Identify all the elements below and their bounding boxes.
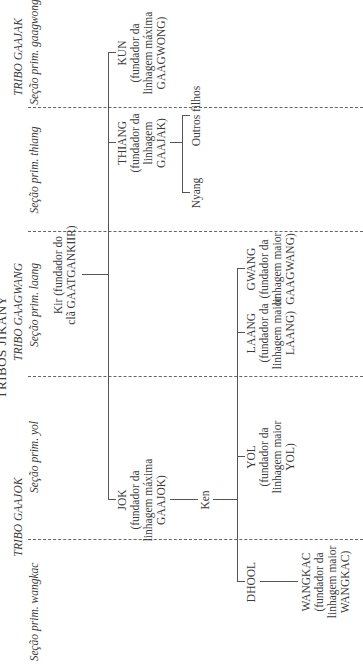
node-thiang: THIANG (fundador da linhagem GAAJAK) [116,113,168,172]
lineage-diagram: TRIBOS JIKÁNY TRIBO GAAJOK TRIBO GAAGWAN… [0,0,363,667]
separator-2 [28,376,363,377]
separator-1 [28,539,363,540]
node-nyang: Nyang [190,178,203,209]
node-yol: YOL (fundador da linhagem maior YOL) [245,421,297,494]
node-kun: KUN (fundador da linhagem máxima GAAGWON… [116,12,168,95]
node-laang: LAANG (fundador da linhagem maior LAANG) [245,297,297,370]
section-yol-heading: Seção prim. yol [28,421,40,493]
tribe-gaagwang-heading: TRIBO GAAGWANG [12,263,24,361]
node-kir: Kir (fundador do clã GAATGANKIIR) [52,225,78,324]
node-ken: Ken [199,490,212,509]
section-laang-heading: Seção prim. laang [28,263,40,347]
section-gaagwong-heading: Seção prim. gaagwong [28,0,40,105]
section-thiang-heading: Seção prim. thiang [28,126,40,213]
section-wangkac-heading: Seção prim. wangkac [28,563,40,662]
node-jok: JOK (fundador da linhagem máxima GAAJOK) [116,459,168,542]
connector-jok-ken [170,499,198,500]
connector-dhool-wangkac [260,581,298,582]
node-gwang: GWANG (fundador da linhagem maior GAAGWA… [245,233,297,306]
connector-thiang [170,142,182,143]
bracket-ken [237,269,238,582]
tribe-gaajok-heading: TRIBO GAAJOK [12,478,24,557]
node-outros-filhos: Outros filhos [190,86,203,146]
connector-kir [82,274,108,275]
separator-3 [28,231,363,232]
bracket-thiang [182,116,183,193]
diagram-title: TRIBOS JIKÁNY [0,296,10,399]
node-dhool: DHOOL [245,562,258,602]
bracket-main [108,53,109,500]
node-wangkac: WANGKAC (fundador da linhagem maior WANG… [300,546,352,619]
tribe-gaajak-heading: TRIBO GAAJAK [12,18,24,96]
